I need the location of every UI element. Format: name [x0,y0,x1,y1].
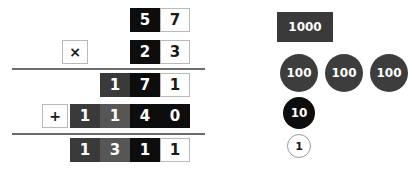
digit-cell: 4 [130,104,160,128]
digit-cell: 7 [130,73,160,97]
digit-cell: 0 [160,104,190,128]
partial-product-1-row: 1 7 1 [100,73,190,97]
place-value-chip-10: 10 [283,97,315,129]
digit-cell: 1 [70,104,100,128]
digit-cell: 1 [160,138,190,162]
digit-cell: 2 [130,40,160,64]
place-value-chip-100: 100 [370,54,408,92]
place-value-chip-1000: 1000 [277,12,333,42]
digit-cell: 1 [100,73,130,97]
digit-cell: 3 [160,40,190,64]
digit-cell: 1 [160,73,190,97]
place-value-chip-100: 100 [325,54,363,92]
rule-above-total [12,133,205,135]
digit-cell: 1 [130,138,160,162]
multiplier-row: 2 3 [130,40,190,64]
place-value-chip-1: 1 [287,134,311,158]
rule-above-partials [12,68,205,70]
multiplicand-row: 5 7 [130,8,190,32]
partial-product-2-row: 1 1 4 0 [70,104,190,128]
digit-cell: 1 [100,104,130,128]
add-operator-box: + [42,104,68,128]
multiply-operator-box: × [62,40,88,64]
digit-cell: 3 [100,138,130,162]
place-value-chip-100: 100 [280,54,318,92]
digit-cell: 5 [130,8,160,32]
worksheet-canvas: 5 7 × 2 3 1 7 1 + 1 1 4 0 1 3 1 1 1000 1… [0,0,412,173]
total-row: 1 3 1 1 [70,138,190,162]
digit-cell: 7 [160,8,190,32]
digit-cell: 1 [70,138,100,162]
